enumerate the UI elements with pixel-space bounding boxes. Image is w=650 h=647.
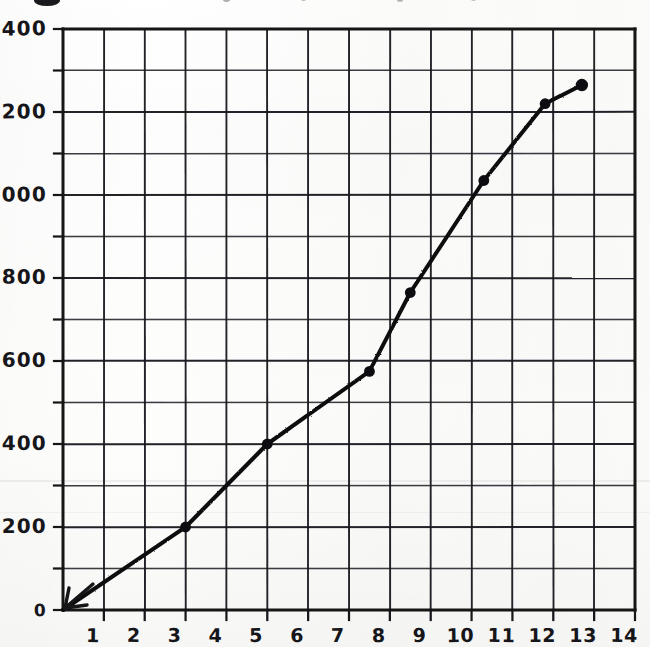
y-axis-tick-label: 1200 <box>0 99 47 124</box>
data-point-marker <box>478 175 489 186</box>
y-axis-tick-label: 600 <box>2 348 47 372</box>
data-point-marker <box>180 522 191 533</box>
data-point-marker <box>576 79 588 91</box>
y-axis-tick-label: 0 <box>34 600 47 620</box>
origin-arrow <box>65 584 93 608</box>
data-point-marker <box>405 287 416 298</box>
x-axis-tick-label: 3 <box>167 624 181 646</box>
y-axis-tick-label: 800 <box>2 265 48 289</box>
data-point-marker <box>364 366 375 377</box>
data-point-markers <box>180 79 588 533</box>
data-point-marker <box>540 98 551 109</box>
x-axis-tick-label: 4 <box>208 624 222 646</box>
x-axis-tick-label: 5 <box>249 624 263 646</box>
y-axis-tick-label: 400 <box>2 431 47 455</box>
y-axis-tick-label: 200 <box>2 514 47 538</box>
line-chart: 0200400600800100012001400 12345678910111… <box>0 0 650 647</box>
x-axis-tick-label: 11 <box>488 624 516 646</box>
x-axis-tick-label: 6 <box>290 624 304 646</box>
chart-gridlines <box>63 29 635 610</box>
x-axis-tick-labels: 1234567891011121314 <box>86 624 638 646</box>
x-axis-tick-label: 14 <box>610 624 638 646</box>
y-axis-tick-label: 1000 <box>0 182 47 207</box>
data-point-marker <box>262 439 273 450</box>
x-axis-tick-label: 9 <box>413 624 427 646</box>
x-axis-tick-label: 8 <box>371 624 385 646</box>
x-axis-tick-label: 2 <box>127 624 141 646</box>
data-series-line <box>63 85 582 610</box>
y-axis-tick-labels: 0200400600800100012001400 <box>0 16 47 620</box>
y-axis-tick-label: 1400 <box>0 16 47 41</box>
x-axis-tick-label: 10 <box>447 624 475 646</box>
x-axis-tick-label: 13 <box>569 624 597 646</box>
chart-tick-marks <box>54 29 635 620</box>
x-axis-tick-label: 7 <box>331 624 345 646</box>
x-axis-tick-label: 12 <box>528 624 556 646</box>
x-axis-tick-label: 1 <box>86 624 100 646</box>
